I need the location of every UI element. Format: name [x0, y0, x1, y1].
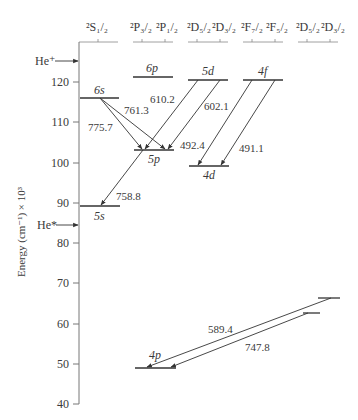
header-P-term-0: ²P₃/₂: [130, 20, 152, 34]
transition-747-8: [171, 313, 308, 367]
y-ticks: [73, 82, 79, 404]
level-6p-label: 6p: [146, 61, 158, 75]
energy-level-diagram: ²S₁/₂ ²P₃/₂ ²P₁/₂ ²D₅/₂ ²D₃/₂ ²F₇/₂ ²F₅/…: [0, 0, 358, 420]
y-tick-80: 80: [57, 236, 69, 250]
label-589-4: 589.4: [208, 323, 233, 335]
label-747-8: 747.8: [245, 341, 270, 353]
header-S-term-0: ²S₁/₂: [86, 20, 108, 34]
level-6s-label: 6s: [94, 83, 105, 97]
y-tick-120: 120: [51, 75, 69, 89]
he-metastable-label: He*: [37, 218, 57, 232]
y-tick-50: 50: [57, 357, 69, 371]
header-D2-term-0: ²D₅/₂: [296, 20, 320, 34]
transitions: 775.7 761.3 610.2 602.1 492.4 491.1 758.…: [88, 80, 331, 367]
column-headers: ²S₁/₂ ²P₃/₂ ²P₁/₂ ²D₅/₂ ²D₃/₂ ²F₇/₂ ²F₅/…: [79, 20, 345, 42]
level-4f-label: 4f: [258, 64, 269, 78]
label-491-1: 491.1: [239, 142, 264, 154]
y-tick-70: 70: [57, 276, 69, 290]
label-602-1: 602.1: [204, 100, 229, 112]
header-F-term-1: ²F₅/₂: [266, 20, 288, 34]
y-tick-100: 100: [51, 156, 69, 170]
header-D2-term-1: ²D₃/₂: [321, 20, 345, 34]
level-5s-label: 5s: [94, 209, 105, 223]
he-ion-label: He⁺: [35, 54, 55, 68]
y-tick-110: 110: [51, 115, 69, 129]
y-tick-40: 40: [57, 397, 69, 411]
y-axis-label: Energy (cm⁻¹) × 10³: [15, 186, 28, 277]
header-D-term-1: ²D₃/₂: [212, 20, 236, 34]
level-5p-label: 5p: [148, 152, 160, 166]
y-tick-90: 90: [57, 196, 69, 210]
transition-589-4: [147, 298, 331, 367]
header-F-term-0: ²F₇/₂: [241, 20, 263, 34]
level-5d-label: 5d: [202, 64, 215, 78]
level-4p-label: 4p: [149, 348, 161, 362]
label-610-2: 610.2: [150, 93, 175, 105]
label-775-7: 775.7: [88, 121, 113, 133]
y-tick-60: 60: [57, 317, 69, 331]
header-P-term-1: ²P₁/₂: [156, 20, 178, 34]
label-761-3: 761.3: [124, 104, 149, 116]
label-492-4: 492.4: [180, 139, 205, 151]
label-758-8: 758.8: [116, 190, 141, 202]
header-D-term-0: ²D₅/₂: [187, 20, 211, 34]
level-4d-label: 4d: [203, 168, 216, 182]
